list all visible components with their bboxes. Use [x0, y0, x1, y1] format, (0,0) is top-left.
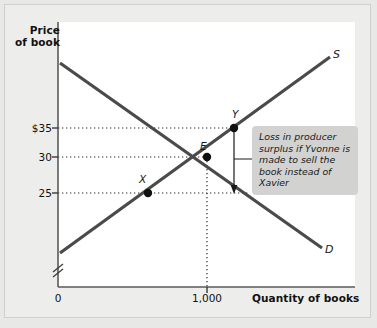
y-tick-label-25: 25	[10, 187, 52, 199]
data-point-x	[144, 189, 152, 197]
x-tick-label-0: 0	[46, 292, 70, 304]
supply-curve-label: S	[333, 48, 340, 61]
x-axis-title: Quantity of books	[252, 292, 362, 304]
data-point-label-x: X	[139, 173, 146, 185]
y-axis-title-line-2: of book	[14, 36, 60, 48]
demand-curve-label: D	[325, 243, 333, 256]
data-point-label-y: Y	[232, 108, 238, 120]
y-tick-label-35: $35	[10, 122, 52, 134]
y-axis-title: Price of book	[14, 24, 60, 48]
data-point-e	[203, 153, 211, 161]
figure-container: Price of book Quantity of books $35 30 2…	[0, 0, 377, 328]
y-axis-title-line-1: Price	[14, 24, 60, 36]
producer-surplus-callout: Loss in producer surplus if Yvonne is ma…	[252, 126, 358, 195]
y-tick-label-30: 30	[10, 151, 52, 163]
data-point-label-e: E	[200, 140, 207, 152]
x-tick-label-1000: 1,000	[181, 292, 233, 304]
data-point-y	[230, 124, 238, 132]
